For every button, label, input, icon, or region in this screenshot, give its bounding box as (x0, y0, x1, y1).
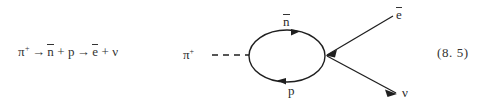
figure-canvas: π+→n+p→e+ν π+ n p e ν (8. 5) (0, 0, 496, 108)
diagram-positron-symbol: e (396, 7, 402, 21)
diagram-label-neutrino: ν (402, 86, 408, 99)
diagram-label-proton: p (288, 84, 295, 97)
nucleon-loop-ellipse (249, 30, 325, 82)
diagram-pion-charge-superscript: + (190, 47, 195, 56)
positron-line (327, 16, 393, 55)
diagram-pion-symbol: π (183, 47, 190, 62)
diagram-label-positron: e (396, 7, 402, 21)
equation-number: (8. 5) (437, 46, 469, 59)
diagram-label-pion: π+ (183, 48, 194, 61)
diagram-label-antineutron: n (283, 14, 290, 28)
feynman-diagram: π+ n p e ν (0, 0, 496, 108)
feynman-diagram-svg (0, 0, 496, 108)
diagram-antineutron-symbol: n (283, 14, 290, 28)
neutrino-line (327, 56, 396, 93)
